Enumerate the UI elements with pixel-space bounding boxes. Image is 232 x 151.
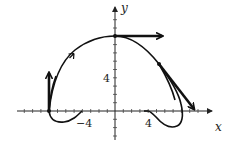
x-axis: −4 4 x — [17, 109, 222, 134]
parametric-curve — [49, 36, 182, 127]
y-tick-label-4: 4 — [103, 72, 110, 85]
x-tick-label-neg4: −4 — [76, 117, 92, 130]
y-axis-label: y — [120, 1, 128, 15]
x-axis-label: x — [215, 120, 222, 134]
x-tick-label-4: 4 — [145, 117, 152, 130]
y-axis: 4 y — [103, 1, 128, 140]
parametric-curve-diagram: −4 4 x 4 y — [0, 0, 232, 151]
vector-right-down-arrow-icon — [159, 64, 194, 109]
